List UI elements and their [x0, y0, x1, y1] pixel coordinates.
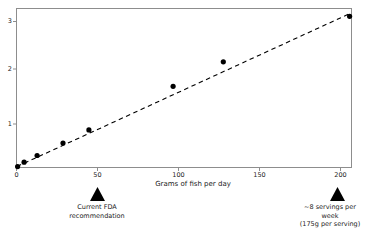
up-triangle-icon-servings — [330, 187, 345, 201]
annotation-servings-line-1: ~8 servings per — [283, 203, 377, 212]
y-tick-label-2: 2 — [0, 66, 12, 73]
annotation-fda-line-2: recommendation — [47, 212, 147, 221]
annotation-fda-line-1: Current FDA — [47, 203, 147, 212]
annotation-servings-line-2: week — [283, 212, 377, 221]
annotation-current-fda-recommendation: Current FDA recommendation — [47, 203, 147, 220]
annotation-servings-line-3: (175g per serving) — [283, 220, 377, 229]
x-tick-label-100: 100 — [167, 172, 191, 179]
up-triangle-icon-fda — [90, 187, 105, 201]
annotation-eight-servings-per-week: ~8 servings per week (175g per serving) — [283, 203, 377, 229]
y-tick-label-1: 1 — [0, 121, 12, 128]
x-tick-label-50: 50 — [86, 172, 110, 179]
x-tick-label-200: 200 — [329, 172, 353, 179]
y-tick-label-3: 3 — [0, 18, 12, 25]
x-tick-label-0: 0 — [5, 172, 29, 179]
plot-area — [16, 8, 352, 168]
chart-figure: 3 2 1 0 50 100 150 200 Grams of fish per… — [0, 0, 379, 236]
x-axis-title: Grams of fish per day — [126, 180, 260, 189]
annotation-markers — [90, 187, 345, 201]
x-tick-label-150: 150 — [248, 172, 272, 179]
